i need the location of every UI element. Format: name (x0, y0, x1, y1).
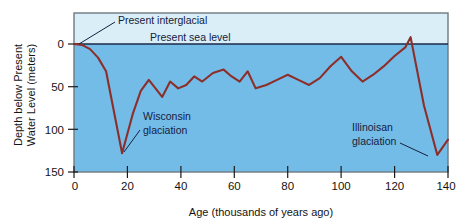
wisconsin-glaciation-label-line2: glaciation (143, 124, 188, 136)
y-axis-title-line2: Water Level (meters) (25, 44, 37, 146)
xtick-label-20: 20 (121, 180, 134, 192)
xtick-label-80: 80 (281, 180, 294, 192)
xtick-label-40: 40 (175, 180, 188, 192)
wisconsin-glaciation-label-line1: Wisconsin (143, 110, 191, 122)
xtick-label-120: 120 (385, 180, 404, 192)
x-axis-title: Age (thousands of years ago) (189, 206, 333, 218)
ytick-label-50: 50 (51, 81, 64, 93)
ytick-label-0: 0 (58, 38, 64, 50)
xtick-label-60: 60 (228, 180, 241, 192)
present-interglacial-label: Present interglacial (118, 14, 207, 26)
plot-lower-band (74, 44, 448, 172)
xtick-label-100: 100 (332, 180, 351, 192)
illinoisan-glaciation-label-line1: Illinoisan (352, 121, 393, 133)
y-axis-title-line1: Depth below Present (12, 44, 24, 146)
illinoisan-glaciation-label-line2: glaciation (352, 135, 397, 147)
sea-level-chart-figure: 0 50 100 150 0 20 40 60 80 100 120 140 D… (0, 0, 476, 224)
ytick-label-100: 100 (45, 124, 64, 136)
xtick-label-0: 0 (72, 180, 78, 192)
chart-svg: 0 50 100 150 0 20 40 60 80 100 120 140 D… (0, 0, 476, 224)
ytick-label-150: 150 (45, 166, 64, 178)
present-sea-level-label: Present sea level (150, 31, 231, 43)
xtick-label-140: 140 (436, 180, 455, 192)
